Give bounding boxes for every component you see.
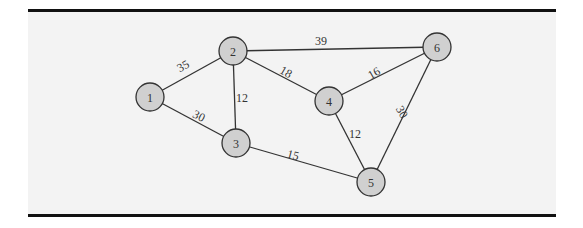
edge-4-6 bbox=[329, 47, 437, 101]
node-label: 3 bbox=[233, 137, 239, 151]
edge-2-6 bbox=[233, 47, 437, 51]
edge-labels-layer: 353012183915121630 bbox=[174, 34, 411, 163]
node-label: 1 bbox=[147, 91, 153, 105]
node-5: 5 bbox=[357, 168, 385, 196]
edge-weight-1-3: 30 bbox=[190, 107, 207, 125]
node-3: 3 bbox=[222, 129, 250, 157]
edge-weight-2-3: 12 bbox=[236, 91, 248, 105]
node-2: 2 bbox=[219, 37, 247, 65]
node-label: 4 bbox=[326, 95, 332, 109]
node-label: 6 bbox=[434, 41, 440, 55]
edge-weight-1-2: 35 bbox=[174, 57, 191, 75]
edge-weight-4-6: 16 bbox=[365, 64, 382, 82]
node-4: 4 bbox=[315, 87, 343, 115]
node-label: 5 bbox=[368, 176, 374, 190]
edge-weight-2-6: 39 bbox=[315, 34, 327, 48]
graph-canvas: 353012183915121630 123456 bbox=[0, 0, 583, 228]
edge-3-5 bbox=[236, 143, 371, 182]
node-6: 6 bbox=[423, 33, 451, 61]
edge-weight-2-4: 18 bbox=[277, 63, 294, 81]
node-label: 2 bbox=[230, 45, 236, 59]
node-1: 1 bbox=[136, 83, 164, 111]
edge-weight-4-5: 12 bbox=[349, 127, 361, 141]
